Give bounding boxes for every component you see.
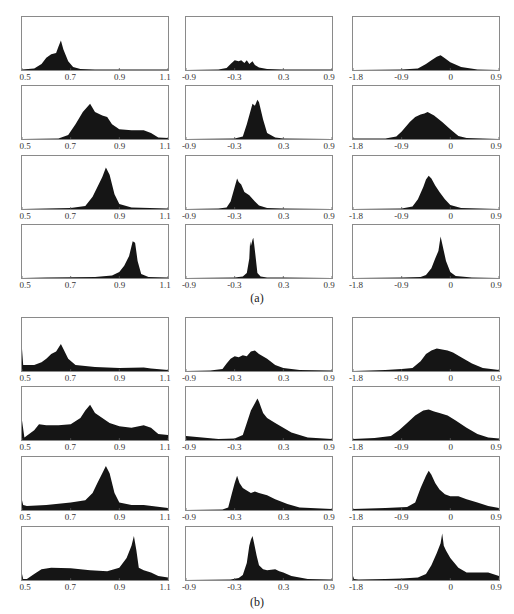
histogram-panel (185, 456, 333, 511)
histogram-area (22, 344, 168, 371)
histogram-panel (352, 526, 500, 581)
x-tick-label: 0.9 (114, 280, 125, 290)
histogram-area (22, 536, 168, 580)
x-tick-label: -0.9 (394, 582, 408, 592)
histogram-panel (21, 16, 169, 71)
x-tick-label: 0.5 (19, 582, 30, 592)
x-tick-label: 0.5 (19, 211, 30, 221)
histogram-area (353, 471, 499, 510)
histogram-panel (352, 456, 500, 511)
x-tick-label: 1.1 (159, 211, 170, 221)
x-tick-label: 0.3 (278, 582, 289, 592)
x-tick-label: -0.9 (182, 442, 196, 452)
histogram-area (22, 241, 168, 278)
x-tick-label: 0.5 (19, 442, 30, 452)
x-tick-label: -0.3 (227, 442, 241, 452)
x-tick-label: 0 (448, 512, 453, 522)
x-tick-label: -0.3 (227, 373, 241, 383)
histogram-panel (352, 155, 500, 210)
x-tick-label: -1.8 (349, 141, 363, 151)
x-tick-label: 1.1 (159, 582, 170, 592)
x-tick-label: 0.9 (323, 211, 334, 221)
histogram-area (353, 534, 499, 581)
histogram-panel (185, 386, 333, 441)
x-tick-label: 0 (448, 373, 453, 383)
x-tick-label: 0.5 (19, 512, 30, 522)
x-tick-label: 0.7 (65, 582, 76, 592)
x-tick-label: -0.3 (227, 141, 241, 151)
x-tick-label: 0.9 (114, 582, 125, 592)
x-tick-label: 0.5 (19, 280, 30, 290)
x-tick-label: -0.3 (227, 512, 241, 522)
x-tick-label: -1.8 (349, 442, 363, 452)
histogram-area (353, 236, 499, 278)
x-tick-label: 0.3 (278, 141, 289, 151)
x-tick-label: 0.5 (19, 72, 30, 82)
histogram-area (353, 112, 499, 139)
histogram-panel (352, 386, 500, 441)
x-tick-label: 0.5 (19, 141, 30, 151)
x-tick-label: -0.9 (394, 512, 408, 522)
x-tick-label: 0.9 (114, 72, 125, 82)
x-tick-label: 0.9 (490, 141, 501, 151)
histogram-area (22, 41, 168, 70)
histogram-panel (185, 85, 333, 140)
x-tick-label: 0.9 (323, 442, 334, 452)
x-tick-label: 0.5 (19, 373, 30, 383)
histogram-area (186, 238, 332, 278)
x-tick-label: -1.8 (349, 211, 363, 221)
x-tick-label: 0.3 (278, 442, 289, 452)
x-tick-label: 1.1 (159, 373, 170, 383)
x-tick-label: -0.3 (227, 582, 241, 592)
x-tick-label: 0.9 (490, 512, 501, 522)
x-tick-label: 1.1 (159, 72, 170, 82)
histogram-area (186, 350, 332, 371)
x-tick-label: 0.9 (323, 141, 334, 151)
x-tick-label: 0.9 (323, 512, 334, 522)
histogram-area (186, 476, 332, 510)
x-tick-label: 0.9 (490, 582, 501, 592)
x-tick-label: -0.9 (394, 211, 408, 221)
histogram-area (22, 104, 168, 139)
histogram-panel (185, 16, 333, 71)
x-tick-label: -1.8 (349, 72, 363, 82)
histogram-panel (21, 526, 169, 581)
x-tick-label: 0.7 (65, 442, 76, 452)
histogram-panel (352, 16, 500, 71)
x-tick-label: 0.7 (65, 72, 76, 82)
x-tick-label: 0.9 (114, 141, 125, 151)
x-tick-label: 0.3 (278, 72, 289, 82)
x-tick-label: 1.1 (159, 141, 170, 151)
histogram-panel (21, 317, 169, 372)
x-tick-label: -0.9 (394, 141, 408, 151)
x-tick-label: -0.9 (182, 141, 196, 151)
x-tick-label: 0 (448, 72, 453, 82)
x-tick-label: -1.8 (349, 582, 363, 592)
x-tick-label: 0.3 (278, 512, 289, 522)
histogram-panel (185, 224, 333, 279)
x-tick-label: -0.9 (394, 280, 408, 290)
x-tick-label: 0.9 (490, 211, 501, 221)
x-tick-label: 0.3 (278, 373, 289, 383)
histogram-panel (21, 224, 169, 279)
histogram-area (186, 100, 332, 139)
x-tick-label: -0.3 (227, 211, 241, 221)
x-tick-label: -0.9 (182, 373, 196, 383)
x-tick-label: 1.1 (159, 512, 170, 522)
x-tick-label: 0 (448, 442, 453, 452)
histogram-panel (185, 317, 333, 372)
x-tick-label: 0 (448, 141, 453, 151)
histogram-area (353, 176, 499, 209)
x-tick-label: -0.9 (182, 280, 196, 290)
x-tick-label: 0.7 (65, 373, 76, 383)
x-tick-label: -1.8 (349, 373, 363, 383)
x-tick-label: 0.9 (323, 373, 334, 383)
x-tick-label: 0.9 (114, 512, 125, 522)
histogram-panel (21, 155, 169, 210)
x-tick-label: -0.9 (394, 72, 408, 82)
histogram-area (186, 179, 332, 209)
histogram-area (22, 405, 168, 440)
x-tick-label: 0.3 (278, 280, 289, 290)
x-tick-label: -0.3 (227, 72, 241, 82)
histogram-panel (185, 155, 333, 210)
